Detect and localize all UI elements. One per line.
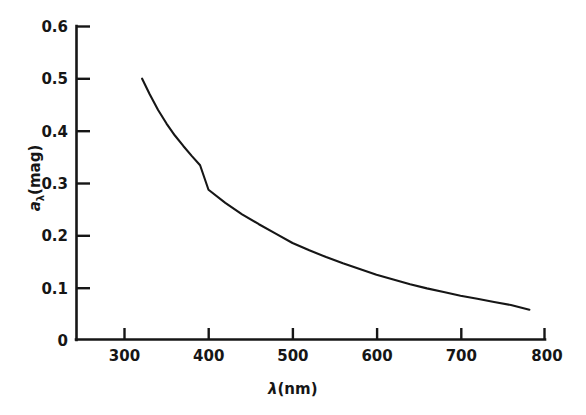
y-axis-title-unit: (mag) [26,145,44,195]
x-tick-label-400: 400 [193,347,224,365]
extinction-curve [142,79,529,310]
y-tick-label-0: 0 [58,332,68,350]
y-tick-label-0.1: 0.1 [41,280,68,298]
y-axis-title: aλ(mag) [26,145,46,212]
y-axis-title-symbol: a [26,201,44,211]
y-tick-label-0.2: 0.2 [41,227,68,245]
y-tick-label-0.5: 0.5 [41,70,68,88]
extinction-figure: 0.6 0.5 0.4 0.3 0.2 0.1 0 300 400 500 60… [0,0,586,415]
chart-plot-area: 0.6 0.5 0.4 0.3 0.2 0.1 0 300 400 500 60… [0,0,586,415]
y-tick-label-0.3: 0.3 [41,175,68,193]
svg-text:λ(nm): λ(nm) [267,380,318,398]
x-tick-label-600: 600 [361,347,392,365]
x-axis-title: λ(nm) [267,380,318,398]
x-tick-label-700: 700 [446,347,477,365]
x-tick-label-800: 800 [531,347,562,365]
x-tick-labels: 300 400 500 600 700 800 [109,347,563,365]
y-axis-ticks [77,27,91,289]
svg-text:aλ(mag): aλ(mag) [26,145,46,212]
y-tick-labels: 0.6 0.5 0.4 0.3 0.2 0.1 0 [41,18,68,350]
x-tick-label-500: 500 [277,347,308,365]
y-tick-label-0.6: 0.6 [41,18,68,36]
x-tick-label-300: 300 [109,347,140,365]
x-axis-title-unit: (nm) [278,380,318,398]
y-tick-label-0.4: 0.4 [41,123,68,141]
x-axis-title-symbol: λ [267,380,278,398]
x-axis-ticks [125,328,545,340]
